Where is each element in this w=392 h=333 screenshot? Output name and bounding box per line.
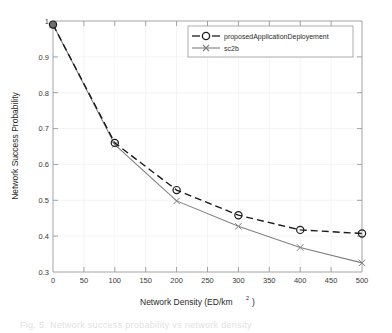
legend[interactable]: proposedApplicationDeployement sc2b [188,26,353,57]
x-axis-label: Network Density (ED/km [140,297,233,307]
svg-text:1: 1 [45,17,49,26]
svg-text:0.7: 0.7 [39,124,49,133]
x-tick-labels: 0 50 100 150 200 250 300 350 400 450 500 [51,276,368,285]
network-success-probability-chart: 1 0.9 0.8 0.7 0.6 0.5 0.4 0.3 0 50 100 1… [0,0,392,333]
svg-text:50: 50 [80,276,88,285]
svg-text:0.8: 0.8 [39,89,49,98]
y-tick-labels: 1 0.9 0.8 0.7 0.6 0.5 0.4 0.3 [39,17,49,277]
svg-text:0.6: 0.6 [39,160,49,169]
svg-text:0.4: 0.4 [39,232,49,241]
svg-text:500: 500 [356,276,369,285]
svg-text:250: 250 [201,276,214,285]
svg-text:350: 350 [263,276,276,285]
figure-container: 1 0.9 0.8 0.7 0.6 0.5 0.4 0.3 0 50 100 1… [0,0,392,333]
legend-box [188,26,353,57]
figure-caption: Fig. 5. Network success probability vs n… [0,320,392,333]
x-axis-label-superscript: 2 [246,295,249,301]
svg-text:400: 400 [294,276,307,285]
svg-text:300: 300 [232,276,245,285]
legend-label-proposed: proposedApplicationDeployement [224,33,329,41]
svg-text:0: 0 [51,276,55,285]
svg-text:0.3: 0.3 [39,268,49,277]
legend-label-sc2b: sc2b [224,45,239,52]
svg-text:0.5: 0.5 [39,196,49,205]
figure-caption-text: Fig. 5. Network success probability vs n… [20,320,252,330]
svg-text:0.9: 0.9 [39,53,49,62]
x-axis-label-closeparen: ) [252,297,255,307]
svg-text:150: 150 [139,276,152,285]
svg-text:450: 450 [325,276,338,285]
svg-text:200: 200 [170,276,183,285]
y-axis-label: Network Success Probability [10,91,20,199]
svg-text:100: 100 [109,276,122,285]
